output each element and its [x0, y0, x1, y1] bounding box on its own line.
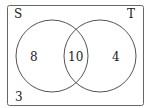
venn-diagram: S T 8 10 4 3	[0, 0, 149, 108]
region-only-t-value: 4	[112, 50, 120, 64]
set-t-label: T	[127, 7, 135, 21]
region-outside-value: 3	[15, 90, 23, 104]
region-only-s-value: 8	[30, 50, 38, 64]
set-s-label: S	[14, 7, 22, 21]
region-intersection-value: 10	[68, 50, 83, 64]
